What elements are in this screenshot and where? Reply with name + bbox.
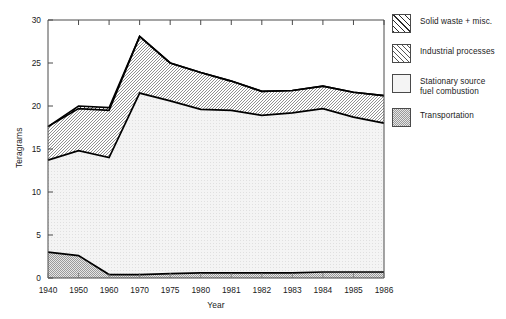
legend-label-solid-waste: Solid waste + misc.: [420, 14, 492, 27]
y-tick-label: 15: [32, 144, 42, 154]
y-tick-label: 25: [32, 58, 42, 68]
legend-label-industrial-processes: Industrial processes: [420, 44, 495, 57]
legend-swatch-industrial-processes: [392, 44, 411, 63]
y-tick-label: 5: [36, 230, 41, 240]
x-tick-label: 1982: [252, 285, 271, 295]
figure-container: 051015202530 194019501960197019751980198…: [0, 0, 506, 319]
legend-label-transportation: Transportation: [420, 108, 474, 121]
legend-item-solid-waste: Solid waste + misc.: [392, 14, 506, 33]
legend-swatch-transportation: [392, 108, 411, 127]
x-axis-title: Year: [176, 300, 256, 310]
legend-swatch-stationary-source: [392, 74, 411, 93]
y-axis-title: Teragrams: [14, 128, 24, 168]
y-tick-label: 20: [32, 101, 42, 111]
y-tick-label: 10: [32, 187, 42, 197]
plot-bands: [48, 36, 384, 278]
x-tick-label: 1950: [69, 285, 88, 295]
x-tick-label: 1981: [222, 285, 241, 295]
x-tick-label: 1940: [39, 285, 58, 295]
legend-label-stationary-source: Stationary source fuel combustion: [420, 74, 485, 97]
x-tick-label: 1986: [375, 285, 394, 295]
legend-item-stationary-source: Stationary source fuel combustion: [392, 74, 506, 97]
x-tick-label: 1960: [100, 285, 119, 295]
chart-legend: Solid waste + misc. Industrial processes…: [392, 14, 506, 138]
legend-item-transportation: Transportation: [392, 108, 506, 127]
y-tick-label: 30: [32, 15, 42, 25]
x-tick-label: 1983: [283, 285, 302, 295]
x-tick-label: 1985: [344, 285, 363, 295]
x-tick-label: 1975: [161, 285, 180, 295]
legend-item-industrial-processes: Industrial processes: [392, 44, 506, 63]
x-tick-label: 1970: [130, 285, 149, 295]
legend-swatch-solid-waste: [392, 14, 411, 33]
x-tick-label: 1984: [314, 285, 333, 295]
y-tick-label: 0: [36, 273, 41, 283]
x-tick-label: 1980: [191, 285, 210, 295]
